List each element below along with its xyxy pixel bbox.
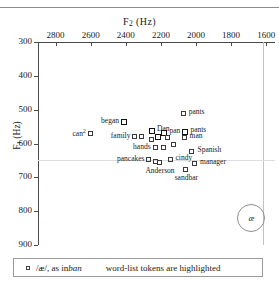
data-point-marker bbox=[157, 160, 162, 165]
x-tick-mark bbox=[161, 42, 162, 46]
data-point-label: sandbar bbox=[175, 174, 198, 182]
data-point-marker bbox=[146, 157, 151, 162]
y-axis-title: F1 (Hz) bbox=[12, 106, 23, 166]
data-point-marker bbox=[192, 161, 197, 166]
y-tick-mark bbox=[34, 177, 38, 178]
legend-example-word: ban bbox=[68, 263, 82, 273]
data-point-marker bbox=[183, 167, 188, 172]
x-tick-mark bbox=[56, 42, 57, 46]
x-axis-title-unit: (Hz) bbox=[136, 16, 156, 27]
x-tick-mark bbox=[91, 42, 92, 46]
data-point-label: cindy bbox=[176, 155, 193, 163]
data-point-marker bbox=[181, 111, 186, 116]
data-point-label: hands bbox=[133, 143, 151, 151]
y-tick-mark bbox=[34, 144, 38, 145]
y-tick-mark bbox=[34, 76, 38, 77]
x-tick-mark bbox=[196, 42, 197, 46]
cut-off-header-text bbox=[0, 0, 279, 7]
legend-ipa-label: /æ/, as in bbox=[36, 263, 68, 273]
data-point-label: Spanish bbox=[197, 146, 221, 154]
data-point-label: pants bbox=[189, 108, 205, 116]
data-point-marker bbox=[121, 119, 127, 125]
data-point-marker bbox=[168, 157, 173, 162]
x-tick-mark bbox=[266, 42, 267, 46]
data-point-marker bbox=[182, 129, 188, 135]
y-tick-label: 500 bbox=[0, 104, 32, 114]
x-tick-label: 2400 bbox=[106, 30, 146, 40]
legend-box: /æ/, as in ban word-list tokens are high… bbox=[13, 258, 263, 277]
data-point-marker bbox=[132, 134, 137, 139]
data-point-label: began bbox=[101, 117, 119, 125]
y-tick-mark bbox=[34, 211, 38, 212]
vowel-symbol-label: æ bbox=[248, 213, 254, 223]
header-divider-rule bbox=[0, 7, 279, 8]
y-tick-label: 700 bbox=[0, 171, 32, 181]
x-tick-mark bbox=[231, 42, 232, 46]
legend-highlight-note: word-list tokens are highlighted bbox=[106, 263, 221, 273]
x-tick-label: 2000 bbox=[176, 30, 216, 40]
data-point-label: pan bbox=[169, 128, 180, 136]
data-point-marker bbox=[171, 142, 176, 147]
x-tick-mark bbox=[126, 42, 127, 46]
y-tick-label: 600 bbox=[0, 138, 32, 148]
y-tick-mark bbox=[34, 42, 38, 43]
data-point-label: man bbox=[190, 132, 203, 140]
data-point-marker bbox=[149, 128, 155, 134]
y-tick-mark bbox=[34, 245, 38, 246]
y-axis-title-unit: (Hz) bbox=[12, 121, 22, 138]
data-point-label: family bbox=[111, 133, 131, 141]
x-axis-title-subscript: 2 bbox=[129, 19, 133, 28]
x-tick-label: 2200 bbox=[141, 30, 181, 40]
data-point-marker bbox=[88, 131, 93, 136]
open-square-icon bbox=[26, 266, 30, 270]
x-tick-label: 1800 bbox=[211, 30, 251, 40]
vowel-category-ellipse: æ bbox=[237, 204, 265, 232]
data-point-label: can2 bbox=[72, 129, 85, 138]
data-point-label: manager bbox=[200, 159, 226, 167]
left-axis-line bbox=[38, 42, 39, 245]
data-point-marker bbox=[139, 134, 144, 139]
x-axis-title: F2 (Hz) bbox=[0, 16, 279, 28]
data-point-marker bbox=[153, 145, 158, 150]
data-point-marker bbox=[155, 134, 161, 140]
y-tick-label: 400 bbox=[0, 70, 32, 80]
x-tick-label: 2800 bbox=[36, 30, 76, 40]
data-point-label: Anderson bbox=[145, 167, 174, 175]
top-axis-line bbox=[38, 42, 275, 43]
y-tick-mark bbox=[34, 110, 38, 111]
plot-area: pantsbeganDanpanpantscan2manfamilyhandsS… bbox=[38, 42, 275, 245]
vowel-formant-scatter-figure: F2 (Hz) F1 (Hz) pantsbeganDanpanpantscan… bbox=[0, 0, 279, 288]
x-tick-label: 1600 bbox=[246, 30, 279, 40]
data-point-label: pancakes bbox=[117, 155, 144, 163]
data-point-marker bbox=[165, 135, 170, 140]
y-tick-label: 300 bbox=[0, 36, 32, 46]
data-point-marker bbox=[182, 135, 187, 140]
y-tick-label: 900 bbox=[0, 239, 32, 249]
x-tick-label: 2600 bbox=[71, 30, 111, 40]
data-point-marker bbox=[161, 145, 166, 150]
y-tick-label: 800 bbox=[0, 205, 32, 215]
